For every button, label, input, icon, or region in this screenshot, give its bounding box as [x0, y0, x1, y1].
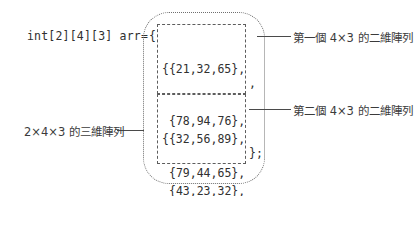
annotation-second-2d-array: 第二個 4×3 的二維陣列 [293, 102, 413, 118]
array-row-line: {{32,56,89}, [162, 131, 241, 148]
annotation-first-2d-array: 第一個 4×3 的二維陣列 [293, 29, 413, 45]
leader-line-second-2d-array [249, 109, 291, 110]
array-row-line: {43,23,32}, [162, 183, 241, 196]
outer-opening-brace: { [149, 29, 156, 43]
closing-brace-semicolon: }; [249, 146, 263, 160]
annotation-3d-array: 2×4×3 的三維陣列 [24, 123, 124, 139]
leader-line-first-2d-array [257, 36, 291, 37]
array-declaration-text: int[2][4][3] arr= [27, 29, 148, 43]
array-row-line: {{21,32,65}, [162, 61, 241, 78]
comma-separator: , [249, 76, 256, 90]
first-2d-array-block: {{21,32,65}, {78,94,76}, {79,44,65}, {89… [157, 24, 246, 94]
second-2d-array-block: {{32,56,89}, {43,23,32}, {32,56,78}, {94… [157, 94, 246, 164]
